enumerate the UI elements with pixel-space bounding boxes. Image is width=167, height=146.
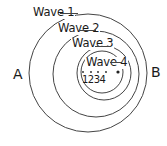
- wave-3-label-overline: [95, 46, 111, 47]
- observer-b-label: B: [151, 65, 161, 79]
- wave-3-label: Wave 3: [71, 38, 114, 50]
- source-position-2-dot: [90, 71, 92, 73]
- wave-2-label: Wave 2: [57, 23, 100, 35]
- current-source-dot: [116, 70, 119, 73]
- observer-a-label: A: [13, 67, 23, 81]
- wave-1-label-overline: [60, 13, 78, 14]
- source-position-1-dot: [82, 71, 84, 73]
- wave-4-label-overline: [110, 62, 122, 63]
- source-positions-label: 1234: [82, 75, 105, 85]
- source-position-4-dot: [105, 71, 107, 73]
- wave-2-label-overline: [80, 30, 96, 31]
- source-position-3-dot: [97, 71, 99, 73]
